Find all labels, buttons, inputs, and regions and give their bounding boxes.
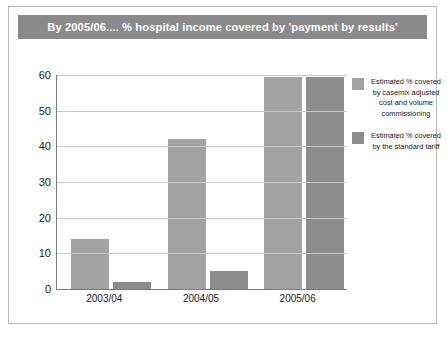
x-tick-label: 2003/04 — [56, 293, 153, 304]
y-tick-label: 30 — [21, 177, 51, 188]
x-axis-labels: 2003/042004/052005/06 — [56, 293, 346, 304]
gridline — [57, 218, 347, 219]
y-tick-label: 40 — [21, 141, 51, 152]
y-tick-label: 50 — [21, 105, 51, 116]
bar-2003-04-series2 — [113, 282, 151, 289]
chart-title: By 2005/06.... % hospital income covered… — [18, 15, 427, 39]
plot-area — [56, 75, 347, 290]
legend-label: Estimated % covered by casemix adjusted … — [370, 77, 442, 119]
x-tick-label: 2005/06 — [249, 293, 346, 304]
y-tick-label: 60 — [21, 70, 51, 81]
y-axis-labels: 0102030405060 — [18, 75, 51, 289]
legend-swatch-icon — [352, 132, 364, 144]
bar-2004-05-series1 — [168, 139, 206, 289]
y-tick-label: 0 — [21, 284, 51, 295]
legend-label: Estimated % covered by the standard tari… — [370, 131, 442, 152]
chart-area: 0102030405060 2003/042004/052005/06 Esti… — [18, 49, 427, 317]
legend-item: Estimated % covered by the standard tari… — [352, 131, 444, 152]
chart-legend: Estimated % covered by casemix adjusted … — [352, 77, 444, 164]
bar-2004-05-series2 — [210, 271, 248, 289]
gridline — [57, 111, 347, 112]
gridline — [57, 75, 347, 76]
gridline — [57, 182, 347, 183]
legend-item: Estimated % covered by casemix adjusted … — [352, 77, 444, 119]
y-tick-label: 10 — [21, 248, 51, 259]
slide-frame: By 2005/06.... % hospital income covered… — [8, 6, 437, 324]
bar-2003-04-series1 — [71, 239, 109, 289]
legend-swatch-icon — [352, 78, 364, 90]
y-tick-label: 20 — [21, 212, 51, 223]
gridline — [57, 253, 347, 254]
x-tick-label: 2004/05 — [153, 293, 250, 304]
gridline — [57, 146, 347, 147]
